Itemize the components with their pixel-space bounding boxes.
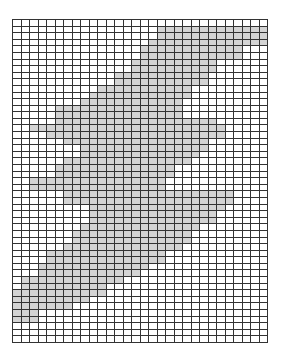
grid-cell bbox=[259, 131, 268, 138]
grid-cell bbox=[63, 19, 72, 26]
grid-cell bbox=[131, 164, 140, 171]
grid-cell bbox=[250, 26, 259, 33]
grid-cell bbox=[199, 118, 208, 125]
grid-cell bbox=[174, 309, 183, 316]
grid-cell bbox=[216, 52, 225, 59]
grid-cell bbox=[89, 138, 98, 145]
grid-cell bbox=[216, 316, 225, 323]
grid-cell bbox=[259, 138, 268, 145]
grid-cell bbox=[216, 164, 225, 171]
grid-cell bbox=[199, 59, 208, 66]
grid-cell bbox=[123, 65, 132, 72]
grid-cell bbox=[106, 197, 115, 204]
grid-cell bbox=[80, 26, 89, 33]
grid-cell bbox=[148, 32, 157, 39]
grid-cell bbox=[259, 217, 268, 224]
grid-cell bbox=[114, 283, 123, 290]
grid-cell bbox=[165, 256, 174, 263]
grid-cell bbox=[123, 243, 132, 250]
grid-cell bbox=[191, 230, 200, 237]
grid-cell bbox=[165, 197, 174, 204]
grid-cell bbox=[199, 92, 208, 99]
grid-cell bbox=[148, 19, 157, 26]
grid-cell bbox=[233, 85, 242, 92]
grid-cell bbox=[38, 250, 47, 257]
grid-cell bbox=[208, 52, 217, 59]
grid-cell bbox=[21, 289, 30, 296]
grid-cell bbox=[114, 184, 123, 191]
grid-cell bbox=[97, 256, 106, 263]
grid-cell bbox=[182, 72, 191, 79]
grid-cell bbox=[216, 204, 225, 211]
grid-cell bbox=[12, 230, 21, 237]
grid-cell bbox=[174, 283, 183, 290]
grid-cell bbox=[199, 65, 208, 72]
grid-cell bbox=[199, 45, 208, 52]
grid-cell bbox=[72, 72, 81, 79]
grid-cell bbox=[63, 322, 72, 329]
grid-cell bbox=[216, 124, 225, 131]
grid-cell bbox=[80, 118, 89, 125]
grid-cell bbox=[38, 19, 47, 26]
grid-cell bbox=[191, 45, 200, 52]
grid-cell bbox=[250, 197, 259, 204]
grid-cell bbox=[114, 111, 123, 118]
grid-cell bbox=[199, 289, 208, 296]
grid-cell bbox=[38, 204, 47, 211]
grid-cell bbox=[208, 283, 217, 290]
grid-cell bbox=[72, 316, 81, 323]
grid-cell bbox=[63, 118, 72, 125]
grid-cell bbox=[216, 335, 225, 342]
grid-cell bbox=[89, 32, 98, 39]
grid-cell bbox=[46, 197, 55, 204]
grid-cell bbox=[250, 309, 259, 316]
grid-cell bbox=[225, 131, 234, 138]
grid-cell bbox=[29, 329, 38, 336]
grid-cell bbox=[199, 184, 208, 191]
grid-cell bbox=[191, 309, 200, 316]
grid-cell bbox=[114, 32, 123, 39]
grid-cell bbox=[89, 164, 98, 171]
grid-cell bbox=[259, 124, 268, 131]
grid-cell bbox=[250, 283, 259, 290]
grid-cell bbox=[97, 164, 106, 171]
grid-cell bbox=[21, 335, 30, 342]
grid-cell bbox=[12, 217, 21, 224]
grid-cell bbox=[250, 151, 259, 158]
grid-cell bbox=[29, 157, 38, 164]
grid-cell bbox=[165, 124, 174, 131]
grid-cell bbox=[12, 184, 21, 191]
grid-cell bbox=[97, 138, 106, 145]
grid-cell bbox=[165, 237, 174, 244]
grid-cell bbox=[250, 32, 259, 39]
grid-cell bbox=[29, 289, 38, 296]
grid-cell bbox=[21, 276, 30, 283]
grid-cell bbox=[216, 92, 225, 99]
grid-cell bbox=[46, 131, 55, 138]
grid-cell bbox=[46, 329, 55, 336]
grid-cell bbox=[233, 52, 242, 59]
grid-cell bbox=[131, 217, 140, 224]
grid-cell bbox=[259, 177, 268, 184]
grid-cell bbox=[114, 105, 123, 112]
grid-cell bbox=[182, 250, 191, 257]
grid-cell bbox=[182, 52, 191, 59]
grid-cell bbox=[199, 223, 208, 230]
grid-cell bbox=[123, 59, 132, 66]
grid-cell bbox=[191, 335, 200, 342]
grid-cell bbox=[259, 230, 268, 237]
grid-cell bbox=[191, 302, 200, 309]
grid-cell bbox=[250, 98, 259, 105]
grid-cell bbox=[12, 59, 21, 66]
grid-cell bbox=[148, 144, 157, 151]
grid-cell bbox=[148, 78, 157, 85]
grid-cell bbox=[233, 144, 242, 151]
grid-cell bbox=[208, 237, 217, 244]
grid-cell bbox=[174, 118, 183, 125]
grid-cell bbox=[140, 85, 149, 92]
grid-cell bbox=[106, 204, 115, 211]
grid-cell bbox=[114, 171, 123, 178]
grid-cell bbox=[233, 263, 242, 270]
grid-cell bbox=[242, 269, 251, 276]
grid-cell bbox=[63, 256, 72, 263]
